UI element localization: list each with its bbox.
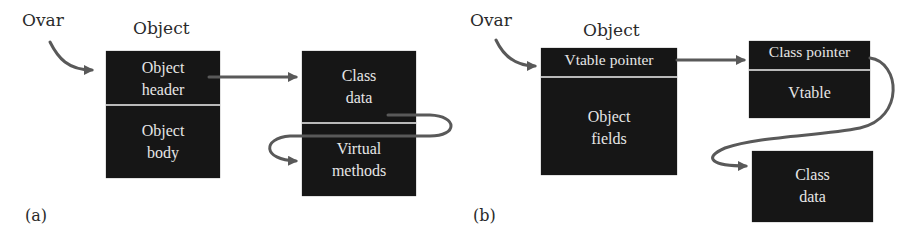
object-body-cell: Object body: [106, 120, 220, 164]
cell-text: Class: [302, 65, 416, 87]
class-data-box-b: Class data: [752, 151, 873, 222]
cell-text: data: [752, 186, 873, 208]
object-box-a: Object header Object body: [106, 51, 220, 178]
cell-text: Vtable: [749, 82, 870, 104]
vtable-cell: Vtable: [749, 82, 870, 104]
cell-text: header: [106, 79, 220, 101]
cell-text: Class pointer: [749, 41, 870, 63]
class-data-cell-b: Class data: [752, 164, 873, 208]
virtual-methods-cell: Virtual methods: [302, 138, 416, 182]
cell-text: Object: [106, 120, 220, 142]
ovar-to-object-arrow-b: [496, 40, 535, 66]
cell-text: Virtual: [302, 138, 416, 160]
caption-a: (a): [25, 208, 47, 224]
class-pointer-cell: Class pointer: [749, 41, 870, 63]
object-box-b: Vtable pointer Object fields: [541, 48, 677, 175]
cell-text: methods: [302, 160, 416, 182]
vtable-pointer-cell: Vtable pointer: [541, 49, 677, 71]
object-fields-cell: Object fields: [541, 106, 677, 150]
object-header-cell: Object header: [106, 57, 220, 101]
ovar-to-object-arrow-a: [50, 42, 92, 70]
cell-separator: [749, 69, 870, 71]
cell-separator: [302, 122, 416, 124]
cell-text: Vtable pointer: [541, 49, 677, 71]
cell-text: Object: [541, 106, 677, 128]
object-label-b: Object: [583, 22, 640, 39]
vtable-box-b: Class pointer Vtable: [749, 41, 870, 118]
object-label-a: Object: [133, 20, 190, 37]
caption-b: (b): [473, 208, 496, 224]
cell-text: data: [302, 87, 416, 109]
cell-text: fields: [541, 128, 677, 150]
class-data-cell: Class data: [302, 65, 416, 109]
ovar-label-a: Ovar: [22, 12, 64, 29]
cell-separator: [106, 104, 220, 106]
cell-text: body: [106, 142, 220, 164]
cell-text: Object: [106, 57, 220, 79]
ovar-label-b: Ovar: [470, 12, 512, 29]
cell-separator: [541, 76, 677, 78]
class-box-a: Class data Virtual methods: [302, 51, 416, 196]
cell-text: Class: [752, 164, 873, 186]
